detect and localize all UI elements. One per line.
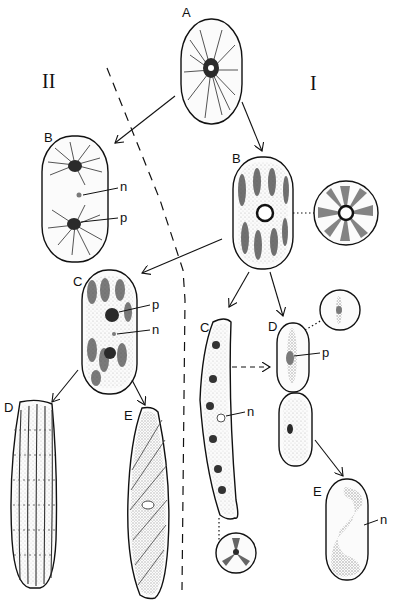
nucleus-n — [217, 414, 225, 422]
dotted-connector — [305, 320, 322, 330]
cell-label-I-C: C — [200, 320, 209, 335]
cross-section-I-C — [216, 533, 256, 573]
cell-label-II-C: C — [73, 274, 82, 289]
annotation-p: p — [152, 297, 159, 312]
arrow-I-B-to-I-C — [229, 272, 249, 307]
cell-A: A — [181, 5, 242, 124]
annotation-n: n — [120, 179, 127, 194]
arrow-I-D-to-I-E — [315, 440, 343, 476]
arrow-II-C-to-II-D — [52, 370, 78, 402]
cell-I-D: D p — [268, 319, 329, 466]
arrow-II-C-to-II-E — [132, 380, 145, 405]
section-label-II: II — [42, 70, 55, 92]
arrow-I-B-to-I-D — [270, 272, 283, 316]
pyrenoid-p — [67, 218, 81, 230]
cell-II-D: D — [4, 400, 57, 588]
cell-label-I-B: B — [232, 151, 241, 166]
pyrenoid-p — [286, 351, 294, 365]
cell-I-B: B — [232, 151, 293, 269]
arrow-A-to-II-B — [115, 96, 175, 143]
annotation-n: n — [152, 322, 159, 337]
cell-I-E: E n — [313, 479, 387, 580]
annotation-n: n — [247, 404, 254, 419]
nucleus-n — [112, 332, 116, 336]
cell-I-C: C n — [200, 319, 254, 519]
annotation-n: n — [380, 512, 387, 527]
cross-section-I-B — [314, 181, 378, 245]
cell-label-I-E: E — [313, 484, 322, 499]
annotation-p: p — [120, 210, 127, 225]
cell-II-B: B n p — [42, 130, 127, 262]
nucleus-n — [77, 193, 82, 198]
cross-section-I-D — [320, 290, 360, 330]
cell-II-E: E — [124, 408, 169, 599]
cell-label-II-E: E — [124, 408, 133, 423]
cell-label-II-D: D — [4, 400, 13, 415]
annotation-p: p — [322, 345, 329, 360]
section-label-I: I — [310, 72, 317, 94]
arrow-A-to-I-B — [242, 102, 262, 151]
pyrenoid-p — [105, 308, 119, 322]
cell-label-A: A — [182, 5, 191, 20]
cell-label-I-D: D — [268, 319, 277, 334]
cell-label-II-B: B — [44, 130, 53, 145]
cell-II-C: C p n — [73, 270, 159, 394]
algae-cell-division-diagram: II I A B n p B — [0, 0, 396, 605]
